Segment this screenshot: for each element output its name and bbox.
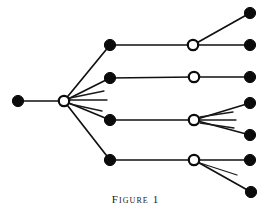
leaf-filled-node-5: [244, 129, 255, 140]
edge-junction-3-to-leaf-5: [194, 120, 250, 135]
figure-container: Figure 1: [0, 0, 271, 217]
junction-open-node-4: [189, 155, 199, 165]
branch-filled-node-4: [104, 154, 115, 165]
branch-filled-node-1: [104, 39, 115, 50]
junction-open-node-2: [189, 72, 199, 82]
branch-filled-node-2: [104, 72, 115, 83]
stub-rays-layer: [70, 91, 237, 175]
hub-open-node: [59, 96, 69, 106]
tree-diagram: [0, 0, 271, 217]
edge-branch-2-to-junction-2: [110, 77, 194, 78]
junction-open-node-3: [189, 115, 199, 125]
figure-caption: Figure 1: [0, 193, 271, 205]
edges-layer: [18, 13, 251, 192]
branch-filled-node-3: [104, 114, 115, 125]
root-filled-node: [12, 95, 23, 106]
leaf-filled-node-1: [244, 7, 255, 18]
edge-junction-3-to-leaf-4: [194, 103, 250, 120]
junction-open-node-1: [188, 40, 198, 50]
leaf-filled-node-2: [244, 39, 255, 50]
edge-junction-1-to-leaf-1: [193, 13, 250, 45]
edge-hub-to-branch-1: [64, 45, 110, 101]
leaf-filled-node-4: [244, 97, 255, 108]
leaf-filled-node-6: [244, 154, 255, 165]
edge-junction-4-to-leaf-7: [194, 160, 251, 192]
leaf-filled-node-3: [244, 71, 255, 82]
junction-3-stub-ray-3: [200, 123, 234, 128]
